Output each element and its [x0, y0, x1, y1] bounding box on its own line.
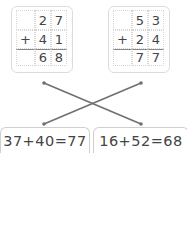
equation-card-2: 16+52=68 — [93, 127, 187, 153]
equation-text: 37+40=77 — [3, 133, 87, 149]
equation-text: 16+52=68 — [99, 133, 183, 149]
dot-icon — [42, 122, 46, 126]
equation-card-1: 37+40=77 — [0, 127, 90, 153]
dot-icon — [139, 122, 143, 126]
dot-icon — [139, 81, 143, 85]
dot-icon — [42, 81, 46, 85]
